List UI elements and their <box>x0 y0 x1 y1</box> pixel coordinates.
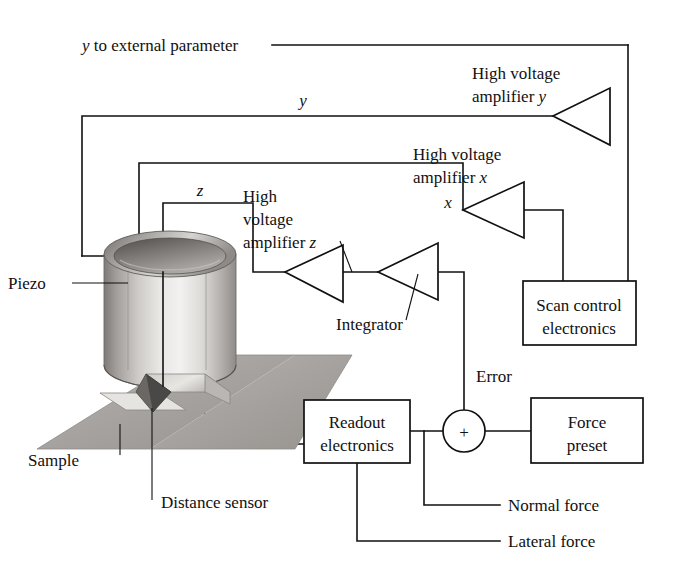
label-piezo: Piezo <box>8 274 46 293</box>
piezo-tube <box>104 231 236 388</box>
label-hv-amplifier-x-line1: High voltage <box>413 145 501 164</box>
high-voltage-amplifier-x[interactable] <box>463 182 524 238</box>
label-lateral-force: Lateral force <box>508 532 595 551</box>
label-error: Error <box>476 367 512 386</box>
wire-integrator-to-error <box>438 272 464 410</box>
label-scan-control-line1: Scan control <box>536 296 622 315</box>
label-readout-line1: Readout <box>329 413 386 432</box>
label-normal-force: Normal force <box>508 496 599 515</box>
label-hv-amplifier-x-line2: amplifier x <box>413 168 488 187</box>
label-integrator: Integrator <box>336 315 403 334</box>
label-hv-amplifier-z-line1: High <box>243 187 278 206</box>
label-scan-control-line2: electronics <box>542 319 616 338</box>
label-y-signal: y <box>297 91 307 110</box>
label-hv-amplifier-y-line1: High voltage <box>472 64 560 83</box>
label-force-preset-line2: preset <box>567 436 608 455</box>
label-z-signal: z <box>196 181 204 200</box>
wire-lateral-force <box>357 463 500 541</box>
label-hv-amplifier-y-line2: amplifier y <box>472 87 547 106</box>
label-x-signal: x <box>443 193 452 212</box>
integrator[interactable] <box>378 243 438 300</box>
label-y-to-external-parameter: y to external parameter <box>80 36 239 55</box>
label-sample: Sample <box>28 451 79 470</box>
label-hv-amplifier-z-line3: amplifier z <box>243 233 317 252</box>
figure-canvas: y to external parameter y x z High volta… <box>0 0 673 574</box>
label-readout-line2: electronics <box>320 436 394 455</box>
label-hv-amplifier-z-line2: voltage <box>243 210 293 229</box>
wire-xamp-to-scan <box>524 210 563 281</box>
high-voltage-amplifier-z[interactable] <box>285 245 343 302</box>
label-sum-symbol: + <box>459 423 469 442</box>
label-force-preset-line1: Force <box>568 413 607 432</box>
sfm-block-diagram: y to external parameter y x z High volta… <box>0 0 673 574</box>
label-distance-sensor: Distance sensor <box>161 493 269 512</box>
high-voltage-amplifier-y[interactable] <box>553 88 610 145</box>
